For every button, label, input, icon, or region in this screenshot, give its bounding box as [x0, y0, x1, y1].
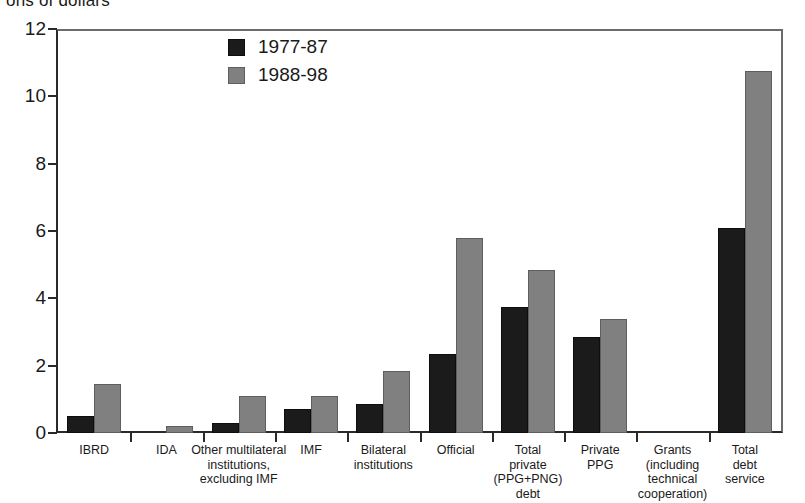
x-axis-tick [564, 433, 566, 442]
category-label-line: excluding IMF [189, 472, 289, 487]
bar [356, 404, 383, 433]
bar [456, 238, 483, 433]
chart-legend: 1977-87 1988-98 [228, 33, 328, 89]
category-label-line: institutions [333, 458, 433, 473]
legend-label: 1988-98 [258, 64, 328, 86]
y-axis-tick-label: 10 [4, 85, 46, 107]
bar [718, 228, 745, 433]
x-axis-tick [709, 433, 711, 442]
y-axis-tick [48, 163, 57, 165]
bar [600, 319, 627, 433]
legend-item-1988-98: 1988-98 [228, 61, 328, 89]
legend-item-1977-87: 1977-87 [228, 33, 328, 61]
chart-axis-title: ons of dollars [6, 0, 110, 11]
category-label-line: debt [478, 487, 578, 502]
x-axis-tick [347, 433, 349, 442]
bars-layer [58, 29, 783, 433]
legend-label: 1977-87 [258, 36, 328, 58]
bar [573, 337, 600, 433]
bar [94, 384, 121, 433]
legend-swatch-gray-square-icon [228, 67, 245, 84]
y-axis-tick-label: 6 [4, 220, 46, 242]
category-label-line: (PPG+PNG) [478, 472, 578, 487]
x-axis-tick [203, 433, 205, 442]
bar [212, 423, 239, 433]
x-axis-tick [636, 433, 638, 442]
x-axis-tick [492, 433, 494, 442]
bar [311, 396, 338, 433]
category-label-line: service [695, 472, 795, 487]
category-label-line: Total [695, 443, 795, 458]
y-axis-tick [48, 297, 57, 299]
y-axis-tick [48, 95, 57, 97]
bar [166, 426, 193, 433]
category-label-line: debt [695, 458, 795, 473]
x-axis-tick [420, 433, 422, 442]
y-axis-tick-label: 12 [4, 18, 46, 40]
bar [239, 396, 266, 433]
legend-swatch-black-square-icon [228, 39, 245, 56]
y-axis-tick-label: 4 [4, 287, 46, 309]
y-axis-tick-label: 8 [4, 153, 46, 175]
y-axis-tick [48, 365, 57, 367]
bar-chart: ons of dollars 024681012 IBRDIDAOther mu… [0, 0, 805, 503]
y-axis-tick-label: 2 [4, 355, 46, 377]
bar [429, 354, 456, 433]
bar [528, 270, 555, 433]
category-label-line: institutions, [189, 458, 289, 473]
y-axis-tick [48, 28, 57, 30]
x-axis-tick [130, 433, 132, 442]
y-axis-tick-label: 0 [4, 422, 46, 444]
x-axis-category-label: Totaldebtservice [695, 443, 795, 487]
bar [284, 409, 311, 433]
x-axis-tick [275, 433, 277, 442]
y-axis-tick [48, 230, 57, 232]
y-axis-tick [48, 432, 57, 434]
category-label-line: cooperation) [622, 487, 722, 502]
bar [501, 307, 528, 433]
bar [67, 416, 94, 433]
bar [383, 371, 410, 433]
bar [745, 71, 772, 433]
